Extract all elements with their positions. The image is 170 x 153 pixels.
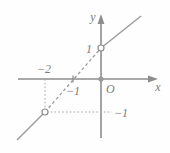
label-x-negative-two: −2 — [37, 62, 51, 76]
line-branch-lower-left — [17, 112, 45, 140]
label-y-negative-one: −1 — [114, 106, 128, 120]
figure-coordinate-plane: y x O 1 −1 −2 −1 — [0, 0, 170, 153]
open-point-0-1 — [98, 45, 104, 51]
y-axis — [98, 14, 105, 138]
origin-label: O — [106, 82, 115, 96]
open-point-neg2-neg1 — [42, 109, 48, 115]
y-axis-label: y — [89, 10, 96, 24]
line-branch-upper-right — [101, 16, 141, 48]
x-axis — [18, 76, 158, 83]
x-axis-label: x — [154, 80, 161, 94]
graph-canvas: y x O 1 −1 −2 −1 — [0, 0, 170, 153]
label-y-one: 1 — [86, 42, 92, 56]
closed-point-origin — [98, 76, 103, 81]
label-x-negative-one: −1 — [66, 84, 80, 98]
